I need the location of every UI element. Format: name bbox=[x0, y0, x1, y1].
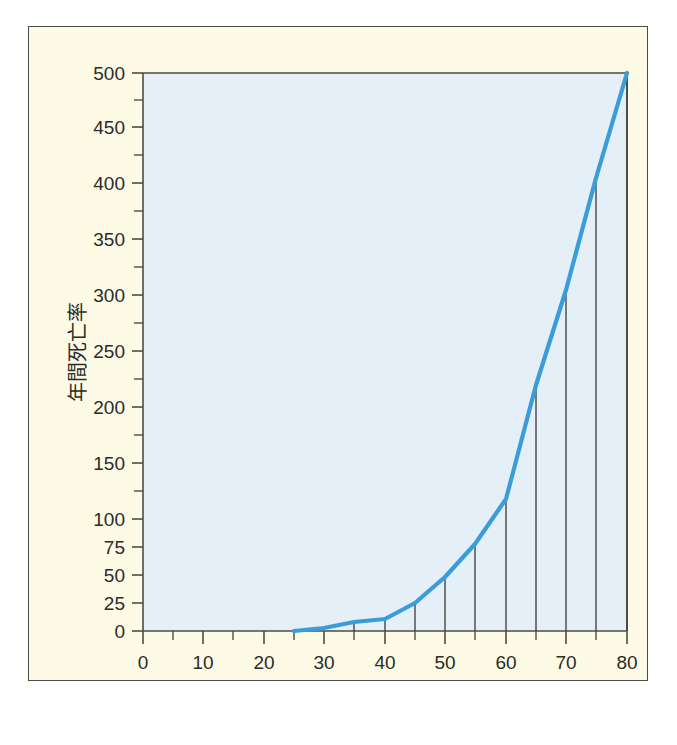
y-tick-label: 150 bbox=[93, 453, 125, 474]
y-axis-tick-labels: 0 25 50 75 100 150 200 250 300 350 400 4… bbox=[93, 63, 125, 642]
plot-area-background bbox=[143, 73, 627, 631]
x-tick-label: 40 bbox=[374, 652, 395, 673]
y-tick-label: 0 bbox=[114, 621, 125, 642]
x-tick-label: 20 bbox=[253, 652, 274, 673]
x-axis-ticks bbox=[143, 631, 627, 644]
y-tick-label: 500 bbox=[93, 63, 125, 84]
y-axis-ticks bbox=[132, 73, 143, 631]
x-tick-label: 10 bbox=[192, 652, 213, 673]
x-axis-tick-labels: 0 10 20 30 40 50 60 70 80 bbox=[138, 652, 638, 673]
y-tick-label: 400 bbox=[93, 173, 125, 194]
y-tick-label: 25 bbox=[104, 593, 125, 614]
y-tick-label: 75 bbox=[104, 537, 125, 558]
x-tick-label: 70 bbox=[555, 652, 576, 673]
x-tick-label: 30 bbox=[313, 652, 334, 673]
y-tick-label: 450 bbox=[93, 117, 125, 138]
y-tick-label: 100 bbox=[93, 509, 125, 530]
y-tick-label: 50 bbox=[104, 565, 125, 586]
y-tick-label: 200 bbox=[93, 397, 125, 418]
mortality-rate-line-chart: 0 25 50 75 100 150 200 250 300 350 400 4… bbox=[29, 27, 649, 682]
y-axis-title: 年間死亡率 bbox=[67, 302, 89, 402]
x-tick-label: 0 bbox=[138, 652, 149, 673]
y-tick-label: 350 bbox=[93, 229, 125, 250]
x-tick-label: 60 bbox=[495, 652, 516, 673]
chart-figure: 0 25 50 75 100 150 200 250 300 350 400 4… bbox=[28, 26, 648, 681]
y-tick-label: 250 bbox=[93, 341, 125, 362]
x-tick-label: 50 bbox=[434, 652, 455, 673]
x-tick-label: 80 bbox=[616, 652, 637, 673]
y-tick-label: 300 bbox=[93, 285, 125, 306]
